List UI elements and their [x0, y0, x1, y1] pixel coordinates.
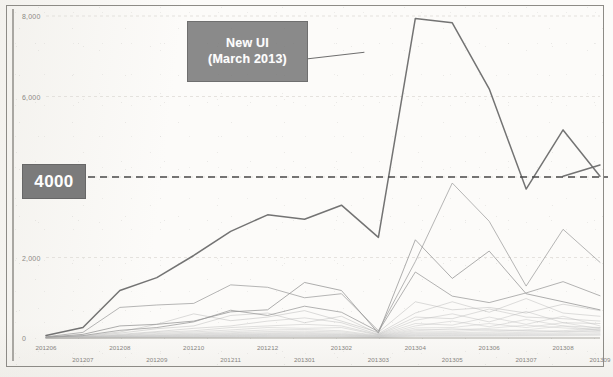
y-tick-label-6000: 6,000 — [22, 93, 41, 100]
x-tick-label-201208: 201208 — [109, 344, 130, 351]
x-tick-label-201209: 201209 — [146, 356, 167, 363]
series-layer — [46, 18, 600, 338]
x-tick-label-201306: 201306 — [479, 344, 500, 351]
x-tick-label-201302: 201302 — [331, 344, 352, 351]
x-tick-label-201206: 201206 — [35, 344, 56, 351]
y-tick-label-8000: 8,000 — [22, 13, 41, 20]
x-tick-label-201305: 201305 — [442, 356, 463, 363]
annotation-leader-line — [306, 52, 364, 59]
chart-page: 02,0004,0006,0008,000 201206201207201208… — [0, 0, 613, 377]
x-tick-label-201212: 201212 — [257, 344, 278, 351]
x-tick-label-201304: 201304 — [405, 344, 426, 351]
x-tick-label-201301: 201301 — [294, 356, 315, 363]
y-tick-label-0: 0 — [22, 335, 26, 342]
annotation-callout-new-ui[interactable]: New UI (March 2013) — [187, 21, 308, 82]
y-tick-label-2000: 2,000 — [22, 254, 41, 261]
gridlines — [46, 16, 600, 258]
x-tick-label-201211: 201211 — [220, 356, 241, 363]
x-tick-label-201307: 201307 — [516, 356, 537, 363]
callout-line-2: (March 2013) — [208, 53, 287, 66]
x-tick-label-201309: 201309 — [589, 356, 610, 363]
x-tick-label-201207: 201207 — [72, 356, 93, 363]
callout-line-1: New UI — [226, 37, 269, 50]
reference-badge-label: 4000 — [34, 172, 73, 192]
reference-value-badge: 4000 — [22, 164, 86, 199]
x-tick-label-201210: 201210 — [183, 344, 204, 351]
x-tick-label-201303: 201303 — [368, 356, 389, 363]
x-tick-label-201308: 201308 — [552, 344, 573, 351]
